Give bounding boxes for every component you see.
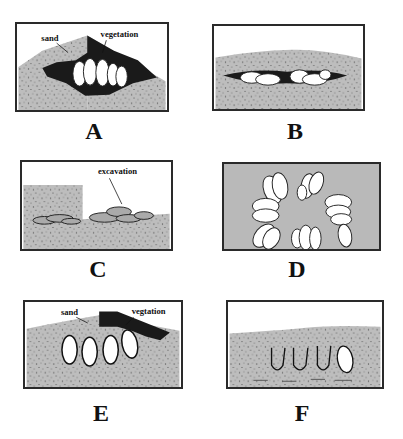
panel-e-drawing: sand vegtation	[25, 302, 181, 387]
panel-c-drawing: excavation	[22, 162, 171, 249]
panel-label-e: E	[93, 401, 109, 425]
panel-f	[226, 300, 384, 389]
panel-a: sand vegetation	[15, 22, 169, 112]
annotation-sand: sand	[41, 33, 58, 43]
panel-b	[212, 24, 365, 111]
panel-d	[222, 162, 381, 251]
panel-label-b: B	[287, 119, 303, 143]
panel-label-f: F	[295, 401, 310, 425]
annotation-excavation: excavation	[98, 166, 137, 176]
panel-c: excavation	[20, 160, 173, 251]
annotation-vegtation: vegtation	[132, 306, 166, 316]
annotation-vegetation: vegetation	[101, 29, 139, 39]
panel-f-drawing	[228, 302, 382, 387]
panel-label-c: C	[89, 257, 106, 281]
panel-e: sand vegtation	[23, 300, 183, 389]
panel-b-drawing	[214, 26, 363, 109]
panel-label-d: D	[288, 257, 305, 281]
annotation-sand: sand	[61, 307, 78, 317]
panel-d-drawing	[224, 164, 379, 249]
panel-label-a: A	[85, 119, 102, 143]
panel-a-drawing: sand vegetation	[17, 24, 167, 110]
